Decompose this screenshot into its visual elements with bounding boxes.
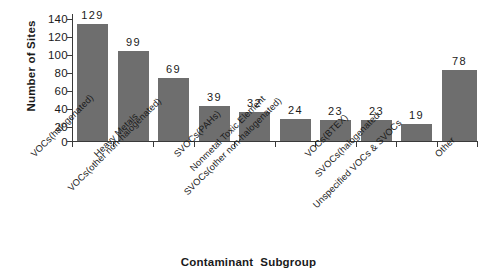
bar [442, 70, 477, 141]
x-tick-mark [275, 142, 276, 147]
x-category-label: SVOCs(other non-halogenated) [182, 96, 284, 198]
bar-value-label: 69 [158, 64, 189, 75]
bar-value-label: 39 [199, 92, 230, 103]
x-axis-title: ContaminantSubgroup [0, 256, 497, 268]
x-category-label: Other [433, 135, 457, 159]
y-tick-label: 60 [38, 86, 68, 98]
bar-value-label: 99 [118, 37, 149, 48]
y-tick-label: 120 [38, 32, 68, 44]
x-tick-mark [153, 142, 154, 147]
y-tick-label: 140 [38, 14, 68, 26]
y-axis-title: Number of Sites [25, 6, 37, 126]
x-tick-mark [72, 142, 73, 147]
bar-value-label: 19 [401, 110, 432, 121]
y-tick-label: 100 [38, 50, 68, 62]
y-tick-label: 80 [38, 68, 68, 80]
bar-chart: Number of Sites 140 120 100 80 60 40 20 … [0, 0, 497, 275]
bar-value-label: 78 [442, 56, 477, 67]
bar [280, 119, 311, 141]
x-axis-title-part1: Contaminant [181, 256, 253, 268]
x-tick-mark [396, 142, 397, 147]
bar-value-label: 129 [77, 10, 108, 21]
bar [158, 78, 189, 141]
x-axis-title-part2: Subgroup [260, 256, 316, 268]
bar-value-label: 24 [280, 105, 311, 116]
x-tick-mark [477, 142, 478, 147]
y-tick-label: 40 [38, 104, 68, 116]
bar [401, 124, 432, 141]
bar [77, 24, 108, 141]
